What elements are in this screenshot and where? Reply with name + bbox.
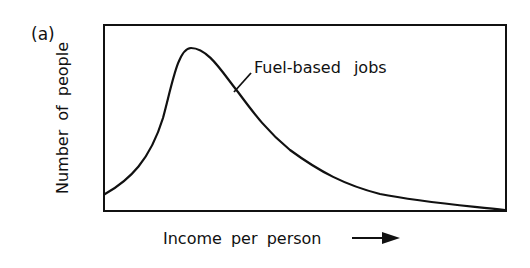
x-axis-arrow-icon [352, 232, 400, 244]
plot-area [0, 0, 530, 268]
annotation-leader-line [234, 73, 251, 92]
series-annotation: Fuel-based jobs [254, 58, 387, 77]
x-axis-label: Income per person [163, 229, 321, 248]
plot-frame [104, 25, 506, 211]
